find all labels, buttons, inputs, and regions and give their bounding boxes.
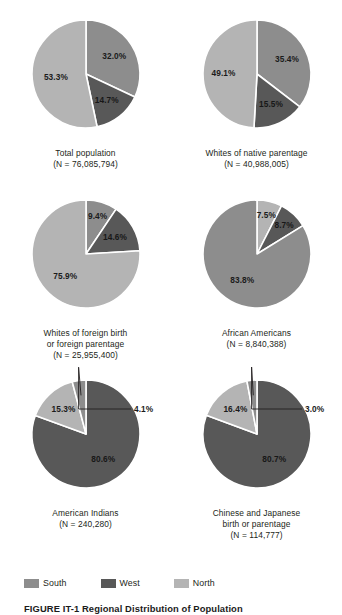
- pie-graphic-whites-native-parentage: 35.4%15.5%49.1%: [171, 14, 342, 146]
- slice-label-south: 83.8%: [230, 275, 255, 285]
- pie-chart-grid: 32.0%14.7%53.3%Total population(N = 76,0…: [0, 14, 342, 554]
- pie-n-label: (N = 240,280): [52, 519, 118, 530]
- slice-label-south: 32.0%: [102, 51, 127, 61]
- pie-title-line: Whites of native parentage: [205, 148, 307, 159]
- pie-caption-whites-foreign-birth: Whites of foreign birthor foreign parent…: [44, 328, 128, 362]
- pie-caption-american-indians: American Indians(N = 240,280): [52, 508, 118, 530]
- slice-label-north: 75.9%: [53, 271, 78, 281]
- pie-caption-whites-native-parentage: Whites of native parentage(N = 40,988,00…: [205, 148, 307, 170]
- pie-title-line: Whites of foreign birth: [44, 328, 128, 339]
- slice-label-west: 80.7%: [262, 454, 287, 464]
- pie-caption-chinese-japanese: Chinese and Japanesebirth or parentage(N…: [213, 508, 301, 542]
- pie-chart-whites-native-parentage: 35.4%15.5%49.1%Whites of native parentag…: [171, 14, 342, 194]
- slice-label-west: 14.6%: [102, 232, 127, 242]
- legend-item-south: South: [24, 578, 67, 588]
- figure-caption: FIGURE IT-1 Regional Distribution of Pop…: [24, 603, 324, 615]
- legend: SouthWestNorth: [24, 578, 215, 588]
- pie-title-line: American Indians: [52, 508, 118, 519]
- legend-swatch-south: [24, 579, 39, 588]
- pie-caption-african-americans: African Americans(N = 8,840,388): [222, 328, 291, 350]
- legend-label-west: West: [120, 578, 140, 588]
- legend-label-north: North: [193, 578, 215, 588]
- pie-graphic-american-indians: 80.6%15.3%4.1%: [0, 374, 171, 506]
- slice-label-west: 15.5%: [258, 99, 283, 109]
- pie-graphic-african-americans: 7.5%8.7%83.8%: [171, 194, 342, 326]
- pie-chart-whites-foreign-birth: 9.4%14.6%75.9%Whites of foreign birthor …: [0, 194, 171, 374]
- pie-n-label: (N = 40,988,005): [205, 159, 307, 170]
- pie-title-line: or foreign parentage: [44, 339, 128, 350]
- slice-label-west: 14.7%: [94, 95, 119, 105]
- pie-graphic-total-population: 32.0%14.7%53.3%: [0, 14, 171, 146]
- pie-title-line: birth or parentage: [213, 519, 301, 530]
- pie-n-label: (N = 8,840,388): [222, 339, 291, 350]
- slice-label-north: 53.3%: [43, 72, 68, 82]
- slice-label-south: 35.4%: [274, 54, 299, 64]
- pie-n-label: (N = 114,777): [213, 530, 301, 541]
- legend-item-west: West: [101, 578, 140, 588]
- slice-label-south: 9.4%: [87, 211, 107, 221]
- pie-chart-african-americans: 7.5%8.7%83.8%African Americans(N = 8,840…: [171, 194, 342, 374]
- pie-graphic-chinese-japanese: 80.7%16.4%3.0%: [171, 374, 342, 506]
- slice-label-north: 15.3%: [51, 404, 76, 414]
- pie-chart-total-population: 32.0%14.7%53.3%Total population(N = 76,0…: [0, 14, 171, 194]
- pie-title-line: Chinese and Japanese: [213, 508, 301, 519]
- slice-label-west: 8.7%: [274, 220, 294, 230]
- pie-chart-chinese-japanese: 80.7%16.4%3.0%Chinese and Japanesebirth …: [171, 374, 342, 554]
- pie-graphic-whites-foreign-birth: 9.4%14.6%75.9%: [0, 194, 171, 326]
- legend-swatch-west: [101, 579, 116, 588]
- legend-label-south: South: [43, 578, 67, 588]
- slice-label-south: 4.1%: [134, 404, 154, 414]
- pie-title-line: African Americans: [222, 328, 291, 339]
- slice-label-west: 80.6%: [91, 454, 116, 464]
- slice-label-south: 3.0%: [305, 404, 325, 414]
- slice-label-north: 7.5%: [256, 210, 276, 220]
- pie-n-label: (N = 76,085,794): [53, 159, 118, 170]
- pie-n-label: (N = 25,955,400): [44, 350, 128, 361]
- legend-item-north: North: [174, 578, 215, 588]
- pie-caption-total-population: Total population(N = 76,085,794): [53, 148, 118, 170]
- pie-title-line: Total population: [53, 148, 118, 159]
- slice-label-north: 49.1%: [211, 68, 236, 78]
- legend-swatch-north: [174, 579, 189, 588]
- pie-chart-american-indians: 80.6%15.3%4.1%American Indians(N = 240,2…: [0, 374, 171, 554]
- slice-label-north: 16.4%: [223, 404, 248, 414]
